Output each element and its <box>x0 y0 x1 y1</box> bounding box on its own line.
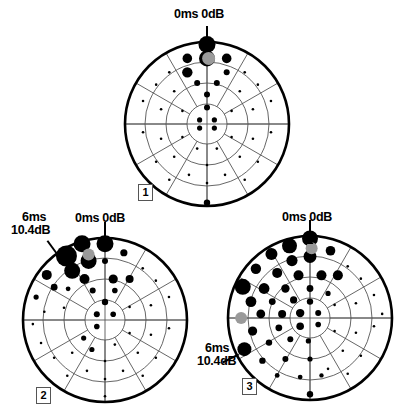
data-points-2 <box>32 235 171 397</box>
panel-2-top-marker-label: 0ms 0dB <box>75 212 125 225</box>
panel-3-side-marker-line2: 10.4dB <box>197 355 236 368</box>
panel-1-number: 1 <box>138 184 153 201</box>
panel-1-top-marker-label: 0ms 0dB <box>174 8 224 21</box>
blindspot-marker-1 <box>202 52 215 65</box>
polar-grid-1 <box>125 42 289 206</box>
panel-3-number: 3 <box>242 378 257 395</box>
perimetry-panel-1: 0ms 0dB 1 <box>0 0 409 208</box>
blindspot-marker-3 <box>235 312 247 324</box>
panel-1-plot <box>0 0 409 208</box>
panel-2-side-marker-line2: 10.4dB <box>11 224 50 237</box>
blindspot-marker-3 <box>306 242 318 254</box>
perimetry-panel-3: 0ms 0dB 6ms 10.4dB 3 <box>205 208 409 416</box>
panel-3-plot <box>205 208 409 416</box>
perimetry-panel-2: 0ms 0dB 6ms 10.4dB 2 <box>0 208 205 416</box>
panel-3-top-marker-label: 0ms 0dB <box>282 211 332 224</box>
panel-2-number: 2 <box>36 387 51 404</box>
blindspot-marker-2 <box>83 248 95 260</box>
panel-2-plot <box>0 208 205 416</box>
